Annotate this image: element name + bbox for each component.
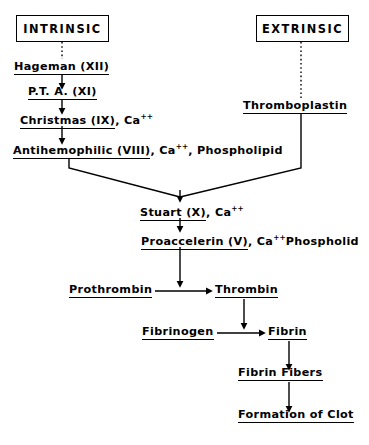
node-antihemophilic-factor-viii: Antihemophilic (VIII), Ca++, Phospholipi… xyxy=(13,140,283,159)
node-christmas-charge: ++ xyxy=(141,112,153,121)
edge-merge-left-leg xyxy=(69,158,180,197)
extrinsic-pathway-box: EXTRINSIC xyxy=(256,15,349,42)
coagulation-cascade-diagram: INTRINSIC EXTRINSIC Hageman (XII) P.T. A… xyxy=(0,0,369,445)
node-pta-factor-xi: P.T. A. (XI) xyxy=(28,85,97,100)
node-thromboplastin: Thromboplastin xyxy=(243,99,347,114)
node-formation-of-clot: Formation of Clot xyxy=(238,408,354,423)
node-proaccelerin-phospholipid: Phospholid xyxy=(286,235,359,248)
node-hageman-factor-xii: Hageman (XII) xyxy=(14,60,109,75)
node-formation-of-clot-label: Formation of Clot xyxy=(238,408,354,423)
node-fibrin: Fibrin xyxy=(268,325,307,340)
intrinsic-pathway-label: INTRINSIC xyxy=(23,22,101,36)
node-proaccelerin-factor-v: Proaccelerin (V), Ca++ Phospholid xyxy=(141,231,359,250)
node-proaccelerin-cofactor: , Ca xyxy=(248,235,273,248)
node-fibrinogen: Fibrinogen xyxy=(142,325,214,340)
node-thrombin: Thrombin xyxy=(215,283,278,298)
node-stuart-label: Stuart (X) xyxy=(140,206,206,221)
node-hageman-label: Hageman (XII) xyxy=(14,60,109,75)
node-fibrinogen-label: Fibrinogen xyxy=(142,325,214,340)
node-stuart-cofactor: , Ca xyxy=(206,206,231,219)
node-thromboplastin-label: Thromboplastin xyxy=(243,99,347,114)
node-christmas-label: Christmas (IX) xyxy=(20,114,115,129)
node-antihemophilic-phospholipid: , Phospholipid xyxy=(188,144,283,157)
node-fibrin-fibers: Fibrin Fibers xyxy=(238,366,323,381)
node-prothrombin-label: Prothrombin xyxy=(69,283,152,298)
node-pta-label: P.T. A. (XI) xyxy=(28,85,97,100)
node-christmas-factor-ix: Christmas (IX), Ca++ xyxy=(20,110,153,129)
node-proaccelerin-charge: ++ xyxy=(273,233,285,242)
node-proaccelerin-label: Proaccelerin (V) xyxy=(141,235,248,250)
node-antihemophilic-cofactor: , Ca xyxy=(150,144,175,157)
extrinsic-pathway-label: EXTRINSIC xyxy=(262,22,343,36)
node-stuart-charge: ++ xyxy=(231,204,243,213)
node-stuart-factor-x: Stuart (X), Ca++ xyxy=(140,202,244,221)
node-fibrin-label: Fibrin xyxy=(268,325,307,340)
node-christmas-cofactor: , Ca xyxy=(115,114,140,127)
node-prothrombin: Prothrombin xyxy=(69,283,152,298)
intrinsic-pathway-box: INTRINSIC xyxy=(16,15,109,42)
node-antihemophilic-charge: ++ xyxy=(176,142,188,151)
node-thrombin-label: Thrombin xyxy=(215,283,278,298)
node-antihemophilic-label: Antihemophilic (VIII) xyxy=(13,144,150,159)
node-fibrin-fibers-label: Fibrin Fibers xyxy=(238,366,323,381)
